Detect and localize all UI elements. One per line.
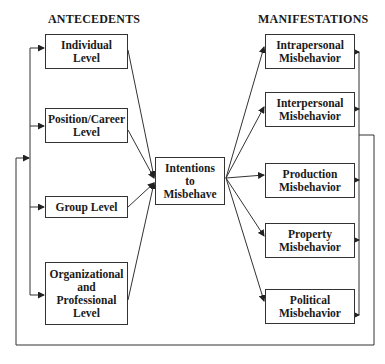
antecedent-position-career-level: Position/Career Level — [45, 108, 128, 143]
manifestations-heading: MANIFESTATIONS — [258, 12, 368, 27]
manifestation-political: Political Misbehavior — [265, 289, 355, 324]
antecedents-heading: ANTECEDENTS — [48, 12, 140, 27]
manifestation-production: Production Misbehavior — [265, 163, 355, 198]
antecedent-organizational-professional-level: Organizational and Professional Level — [45, 262, 128, 325]
manifestation-interpersonal: Interpersonal Misbehavior — [265, 92, 355, 127]
antecedent-group-level: Group Level — [45, 196, 128, 218]
misbehavior-diagram: ANTECEDENTS MANIFESTATIONS Individual Le… — [0, 0, 385, 364]
intentions-to-misbehave: Intentions to Misbehave — [155, 157, 225, 205]
antecedent-individual-level: Individual Level — [45, 34, 128, 69]
manifestation-property: Property Misbehavior — [265, 223, 355, 258]
manifestation-intrapersonal: Intrapersonal Misbehavior — [265, 34, 355, 69]
